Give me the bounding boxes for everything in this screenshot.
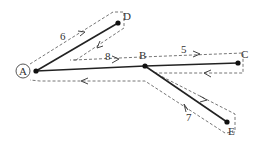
tree-traversal-diagram: A B C D E 6 8 5 7 (0, 0, 261, 145)
node-label-e: E (228, 125, 235, 137)
arrow-right-icon (112, 56, 119, 63)
node-d-dot (115, 20, 120, 25)
traversal-label-ab: 8 (105, 50, 111, 62)
traversal-label-be: 7 (186, 111, 192, 123)
node-c-dot (235, 60, 240, 65)
node-b-dot (142, 63, 147, 68)
edge-a-d (36, 23, 118, 71)
edge-b-c (145, 63, 238, 66)
node-label-a: A (19, 65, 27, 77)
diagram-canvas: A B C D E 6 8 5 7 (0, 0, 261, 145)
edge-a-b (36, 66, 145, 71)
node-a-dot (33, 68, 38, 73)
arrow-left-icon (204, 70, 211, 77)
arrow-left-icon (97, 41, 103, 48)
node-label-b: B (139, 49, 146, 61)
arrow-right-icon (200, 96, 207, 102)
node-label-c: C (241, 48, 248, 60)
node-e-dot (224, 119, 229, 124)
node-label-d: D (123, 10, 131, 22)
traversal-label-ad: 6 (60, 30, 66, 42)
arrow-right-icon (193, 51, 200, 57)
traversal-label-bc: 5 (181, 43, 187, 55)
